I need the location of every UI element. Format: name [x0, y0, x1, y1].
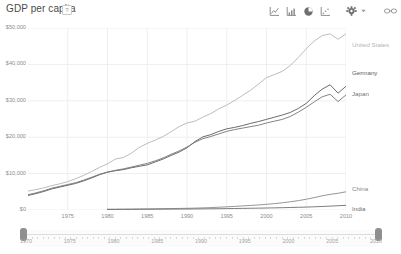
slider-tick [143, 237, 144, 239]
slider-tick [354, 237, 355, 239]
slider-tick [220, 237, 221, 239]
slider-tick [132, 237, 133, 239]
slider-tick [309, 237, 310, 239]
slider-tick [348, 237, 349, 239]
slider-tick [48, 237, 49, 239]
slider-tick [37, 237, 38, 239]
slider-tick [87, 237, 88, 239]
slider-tick [232, 237, 233, 239]
slider-tick-label: 1970 [20, 238, 32, 244]
slider-tick-label: 1990 [195, 238, 207, 244]
slider-tick [215, 237, 216, 239]
slider-tick [265, 237, 266, 239]
slider-tick [176, 237, 177, 239]
slider-tick [187, 237, 188, 239]
slider-tick [76, 237, 77, 239]
slider-tick [137, 237, 138, 239]
slider-tick [270, 237, 271, 239]
slider-tick [82, 237, 83, 239]
slider-tick [359, 237, 360, 239]
slider-tick [254, 237, 255, 239]
slider-tick [165, 237, 166, 239]
slider-tick [320, 237, 321, 239]
slider-tick-label: 1980 [108, 238, 120, 244]
slider-tick [148, 237, 149, 239]
series-label: United States [352, 41, 389, 48]
slider-baseline [26, 234, 376, 235]
slider-tick [209, 237, 210, 239]
series-label: Germany [352, 69, 377, 76]
slider-tick [43, 237, 44, 239]
slider-tick-label: 2005 [326, 238, 338, 244]
slider-tick [226, 237, 227, 239]
gdp-chart-widget: GDP per capita ? [0, 0, 401, 254]
slider-tick [193, 237, 194, 239]
slider-tick-label: 1975 [64, 238, 76, 244]
time-range-slider[interactable]: 197019751980198519901995200020052010 [20, 228, 382, 250]
slider-tick [170, 237, 171, 239]
series-labels: United StatesGermanyJapanChinaIndia [0, 0, 401, 215]
slider-tick-label: 2000 [283, 238, 295, 244]
series-label: India [352, 205, 365, 212]
slider-tick-label: 1995 [239, 238, 251, 244]
series-label: China [352, 185, 368, 192]
slider-tick [315, 237, 316, 239]
slider-tick [59, 237, 60, 239]
slider-tick [120, 237, 121, 239]
slider-tick [98, 237, 99, 239]
slider-tick [54, 237, 55, 239]
slider-tick-label: 2010 [370, 238, 382, 244]
slider-tick [298, 237, 299, 239]
slider-tick [104, 237, 105, 239]
slider-tick [93, 237, 94, 239]
series-label: Japan [352, 90, 369, 97]
slider-tick [276, 237, 277, 239]
slider-tick [182, 237, 183, 239]
slider-tick [126, 237, 127, 239]
slider-tick [304, 237, 305, 239]
slider-tick [343, 237, 344, 239]
slider-tick [259, 237, 260, 239]
slider-tick [365, 237, 366, 239]
slider-tick-label: 1985 [151, 238, 163, 244]
